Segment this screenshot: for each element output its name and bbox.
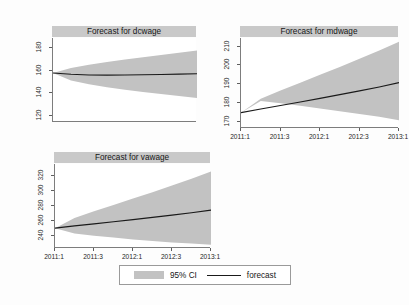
y-axis-tick-mark [51,175,54,176]
panel-dcwage: Forecast for dcwage 120140160180 [28,26,196,132]
x-axis-tick-label: 2013:1 [194,253,226,260]
x-axis-tick-mark [132,248,133,251]
panel-title-dcwage: Forecast for dcwage [52,26,196,37]
legend-label-forecast: forecast [247,271,276,280]
y-axis-tick-mark [237,102,240,103]
y-axis-tick-label: 190 [222,72,232,94]
legend: 95% CI forecast [119,265,291,285]
y-axis-tick-mark [237,46,240,47]
y-axis-tick-mark [51,220,54,221]
ci-band-area [55,172,211,245]
forecast-figure: Forecast for dcwage 120140160180 Forecas… [0,0,409,305]
x-axis-tick-mark [54,248,55,251]
x-axis-tick-label: 2011:3 [77,253,109,260]
y-axis-tick-mark [51,205,54,206]
y-axis-tick-label: 180 [34,36,44,58]
x-axis-tick-label: 2011:3 [264,133,296,140]
plot-svg-mdwage [241,38,399,128]
x-axis-tick-mark [280,128,281,131]
y-axis-tick-mark [49,47,52,48]
plot-area-vawage [54,164,210,248]
x-axis-tick-mark [359,128,360,131]
legend-label-ci: 95% CI [170,271,197,280]
legend-entry-forecast: forecast [207,271,276,280]
panel-vawage: Forecast for vawage 2402602803003202011:… [28,152,210,262]
y-axis-tick-mark [51,190,54,191]
y-axis-tick-mark [51,235,54,236]
forecast-line-swatch-icon [207,275,241,276]
y-axis-tick-label: 320 [36,164,46,186]
plot-svg-vawage [55,164,211,248]
x-axis-tick-label: 2013:1 [382,133,409,140]
plot-area-dcwage [52,38,196,122]
plot-svg-dcwage [53,38,197,122]
x-axis-tick-label: 2012:1 [303,133,335,140]
x-axis-tick-label: 2011:1 [38,253,70,260]
panel-title-vawage: Forecast for vawage [54,152,210,163]
x-axis-tick-mark [398,128,399,131]
x-axis-tick-label: 2012:3 [343,133,375,140]
plot-area-mdwage [240,38,398,128]
y-axis-tick-mark [49,115,52,116]
x-axis-tick-mark [240,128,241,131]
x-axis-tick-label: 2011:1 [224,133,256,140]
x-axis-tick-label: 2012:3 [155,253,187,260]
y-axis-tick-mark [49,70,52,71]
ci-band-swatch-icon [134,271,164,279]
y-axis-tick-mark [237,121,240,122]
y-axis-tick-label: 120 [34,104,44,126]
x-axis-tick-mark [93,248,94,251]
y-axis-tick-label: 160 [34,59,44,81]
y-axis-tick-label: 180 [222,91,232,113]
y-axis-tick-label: 210 [222,35,232,57]
x-axis-tick-mark [319,128,320,131]
legend-entry-ci: 95% CI [134,271,197,280]
x-axis-tick-mark [210,248,211,251]
y-axis-tick-mark [237,83,240,84]
x-axis-tick-label: 2012:1 [116,253,148,260]
y-axis-tick-label: 140 [34,81,44,103]
y-axis-tick-mark [49,92,52,93]
x-axis-tick-mark [171,248,172,251]
y-axis-tick-mark [237,64,240,65]
panel-title-mdwage: Forecast for mdwage [240,26,398,37]
ci-band-vawage [55,172,211,245]
panel-mdwage: Forecast for mdwage 1701801902002102011:… [212,26,400,148]
